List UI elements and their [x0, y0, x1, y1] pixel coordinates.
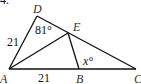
label-C: C: [134, 72, 141, 84]
geometry-diagram: 4. D E A B C 21 81° 21 x°: [0, 0, 141, 84]
segment-EB: [68, 33, 79, 69]
angle-D-measure: 81°: [35, 23, 52, 37]
label-A: A: [0, 72, 8, 84]
label-E: E: [72, 20, 81, 34]
angle-B-measure: x°: [82, 54, 93, 68]
side-AB-length: 21: [38, 71, 50, 84]
label-D: D: [32, 2, 42, 16]
problem-number: 4.: [0, 0, 9, 7]
side-AD-length: 21: [7, 35, 19, 49]
label-B: B: [76, 72, 84, 84]
